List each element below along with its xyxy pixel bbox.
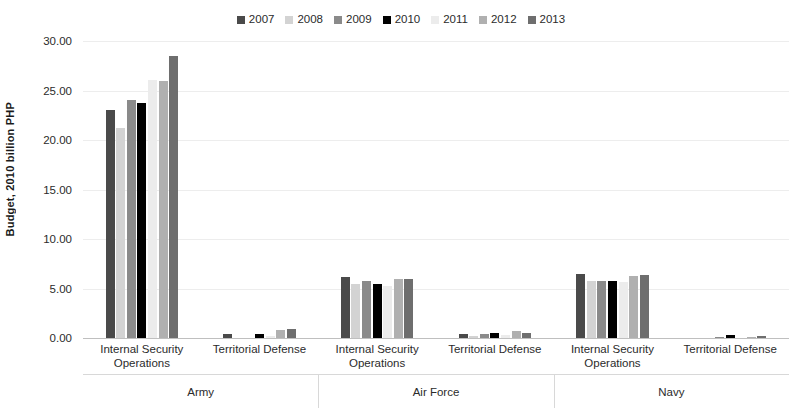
bar-2010[interactable] [608,281,617,338]
legend-item-2012[interactable]: 2012 [479,14,517,26]
bar-2010[interactable] [373,284,382,338]
group-label-army: Army [83,386,318,399]
bar-2013[interactable] [287,329,296,338]
category-label: Territorial Defense [201,342,319,356]
legend-item-2008[interactable]: 2008 [285,14,323,26]
chart-legend: 2007200820092010201120122013 [0,14,802,26]
bar-2013[interactable] [404,279,413,338]
bar-group [671,41,789,338]
category-label-line: Internal Security [83,342,201,356]
legend-item-2007[interactable]: 2007 [237,14,275,26]
legend-swatch-icon [479,16,487,24]
group-separator [554,374,555,408]
bar-2007[interactable] [341,277,350,338]
bar-2007[interactable] [576,274,585,338]
legend-swatch-icon [431,16,439,24]
bar-2012[interactable] [512,331,521,338]
category-label: Territorial Defense [436,342,554,356]
bar-2007[interactable] [106,110,115,338]
bar-2013[interactable] [169,56,178,338]
category-label-line: Territorial Defense [671,342,789,356]
bar-group [318,41,436,338]
bar-group [201,41,319,338]
legend-item-2013[interactable]: 2013 [528,14,566,26]
legend-item-2010[interactable]: 2010 [383,14,421,26]
category-label: Territorial Defense [671,342,789,356]
y-axis-title: Budget, 2010 billion PHP [4,102,20,236]
group-separator [318,374,319,408]
category-label-line: Operations [83,356,201,370]
bar-2012[interactable] [159,81,168,338]
bar-cluster [341,41,414,338]
category-label-line: Operations [554,356,672,370]
legend-swatch-icon [285,16,293,24]
bar-2008[interactable] [351,284,360,338]
bar-2009[interactable] [127,100,136,338]
y-tick-label: 10.00 [43,233,72,245]
y-tick-label: 20.00 [43,134,72,146]
bar-cluster [576,41,649,338]
bar-2008[interactable] [116,128,125,338]
bar-2009[interactable] [362,281,371,338]
category-label: Internal SecurityOperations [554,342,672,370]
y-tick-label: 30.00 [43,35,72,47]
bar-2008[interactable] [587,281,596,338]
bar-2010[interactable] [137,103,146,338]
bar-cluster [223,41,296,338]
x-axis-group-labels: ArmyAir ForceNavy [83,378,789,408]
plot-area [83,41,789,338]
group-row-divider [83,374,789,375]
x-axis-line [83,338,789,339]
legend-swatch-icon [334,16,342,24]
bar-2011[interactable] [619,282,628,338]
legend-swatch-icon [383,16,391,24]
bar-2012[interactable] [276,330,285,338]
bar-cluster [106,41,179,338]
bar-cluster [459,41,532,338]
legend-item-2009[interactable]: 2009 [334,14,372,26]
y-tick-label: 0.00 [50,332,72,344]
legend-swatch-icon [237,16,245,24]
x-axis-category-labels: Internal SecurityOperationsTerritorial D… [83,342,789,376]
legend-item-2011[interactable]: 2011 [431,14,468,26]
bar-2012[interactable] [629,276,638,338]
group-label-air-force: Air Force [318,386,553,399]
category-label-line: Internal Security [554,342,672,356]
legend-label: 2007 [249,14,275,26]
bar-2012[interactable] [394,279,403,338]
category-label-line: Operations [318,356,436,370]
category-label-line: Territorial Defense [201,342,319,356]
category-label: Internal SecurityOperations [83,342,201,370]
y-tick-label: 15.00 [43,184,72,196]
group-label-navy: Navy [554,386,789,399]
legend-label: 2013 [540,14,566,26]
legend-label: 2012 [491,14,517,26]
bar-chart: 2007200820092010201120122013 Budget, 201… [0,0,802,416]
category-label-line: Territorial Defense [436,342,554,356]
category-label: Internal SecurityOperations [318,342,436,370]
bar-2013[interactable] [640,275,649,338]
bar-2011[interactable] [148,80,157,338]
bar-group [436,41,554,338]
bar-group [83,41,201,338]
y-axis-ticks: 0.005.0010.0015.0020.0025.0030.00 [20,0,78,416]
legend-label: 2009 [346,14,372,26]
category-label-line: Internal Security [318,342,436,356]
bar-group [554,41,672,338]
bar-2011[interactable] [383,286,392,338]
legend-swatch-icon [528,16,536,24]
legend-label: 2008 [297,14,323,26]
bar-cluster [694,41,767,338]
legend-label: 2011 [443,14,468,26]
y-tick-label: 25.00 [43,85,72,97]
legend-label: 2010 [395,14,421,26]
bar-2009[interactable] [597,281,606,338]
y-tick-label: 5.00 [50,283,72,295]
